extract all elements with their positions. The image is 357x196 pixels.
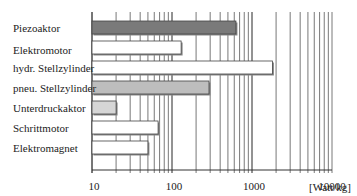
category-label-piezoaktor: Piezoaktor (13, 22, 60, 34)
category-label-pneu-stellzylinder: pneu. Stellzylinder (13, 82, 96, 94)
bar-hydr-stellzylinder (92, 61, 272, 74)
bar-elektromotor (92, 41, 181, 54)
x-tick-100: 100 (166, 180, 183, 192)
category-label-hydr-stellzylinder: hydr. Stellzylinder (13, 62, 94, 74)
x-tick-1000: 1000 (243, 180, 265, 192)
bar-pneu-stellzylinder (92, 81, 209, 94)
category-label-unterdruckaktor: Unterdruckaktor (13, 102, 86, 114)
category-label-schrittmotor: Schrittmotor (13, 122, 69, 134)
bar-piezoaktor (92, 21, 236, 34)
x-tick-10: 10 (89, 180, 100, 192)
bar-unterdruckaktor (92, 101, 116, 114)
x-axis-unit: [Watt/kg] (309, 181, 351, 193)
power-density-chart: Piezoaktor Elektromotor hydr. Stellzylin… (0, 0, 357, 196)
bar-schrittmotor (92, 121, 158, 134)
category-label-elektromagnet: Elektromagnet (13, 142, 78, 154)
category-label-elektromotor: Elektromotor (13, 44, 72, 56)
bar-elektromagnet (92, 141, 148, 154)
